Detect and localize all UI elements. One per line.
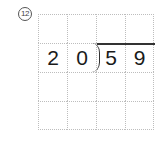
- grid-cell[interactable]: [96, 101, 125, 130]
- grid-cell[interactable]: [67, 14, 96, 43]
- dividend-digit-cell: 5: [96, 43, 125, 72]
- grid-cell[interactable]: [67, 72, 96, 101]
- grid-cell[interactable]: [125, 72, 154, 101]
- grid-cell[interactable]: [125, 101, 154, 130]
- grid-cell[interactable]: [38, 72, 67, 101]
- divisor-digit-cell: 2: [38, 43, 67, 72]
- division-vinculum: [97, 43, 155, 45]
- dividend-digit-cell: 9: [125, 43, 154, 72]
- division-grid: 2 0 5 9: [38, 14, 154, 130]
- grid-cell[interactable]: [38, 14, 67, 43]
- grid-cell[interactable]: [38, 101, 67, 130]
- problem-number-badge: 12: [18, 7, 32, 21]
- grid-cell[interactable]: [96, 14, 125, 43]
- grid-cell[interactable]: [125, 14, 154, 43]
- grid-cell[interactable]: [96, 72, 125, 101]
- grid-cell[interactable]: [67, 101, 96, 130]
